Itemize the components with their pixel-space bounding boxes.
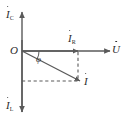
phase-angle-label: φ — [36, 55, 41, 64]
total-current-phasor-vector — [22, 51, 80, 81]
il-subscript: L — [10, 106, 14, 112]
vector-label-i: I — [84, 76, 88, 87]
overdot-icon — [7, 97, 9, 99]
overdot-icon — [115, 41, 117, 43]
overdot-icon — [85, 73, 87, 75]
axis-label-u: U — [112, 44, 120, 55]
overdot-icon — [69, 30, 71, 32]
phasor-diagram-canvas — [0, 0, 127, 121]
ic-subscript: C — [10, 15, 14, 21]
axis-label-il: IL — [6, 100, 13, 111]
i-symbol: I — [84, 76, 88, 87]
u-symbol: U — [112, 44, 120, 55]
axis-label-ic: IC — [6, 9, 14, 20]
origin-label: O — [10, 45, 18, 56]
i-symbol-text: I — [84, 75, 88, 87]
ir-subscript: R — [72, 39, 76, 45]
vector-label-ir: IR — [68, 33, 76, 44]
u-symbol-text: U — [112, 43, 120, 55]
overdot-icon — [7, 6, 9, 8]
phasor-diagram-figure: O φ IC IL U IR I — [0, 0, 127, 121]
